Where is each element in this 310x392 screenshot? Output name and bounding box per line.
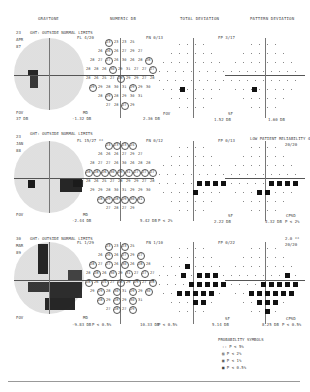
header-graytone: GRAYTONE: [38, 16, 59, 21]
normal-point: [163, 62, 164, 63]
threshold-value: 26: [114, 161, 118, 165]
threshold-value: 28: [94, 67, 98, 71]
p-lt-0.5-symbol: [273, 300, 278, 305]
p-lt-0.5-symbol: [213, 181, 218, 186]
normal-point: [283, 165, 284, 166]
p-lt-0.5-symbol: [221, 282, 226, 287]
p-lt-0.5-symbol: [285, 273, 290, 278]
normal-point: [179, 98, 180, 99]
normal-point: [211, 266, 212, 267]
threshold-value: 27: [122, 206, 126, 210]
threshold-value: 26: [114, 49, 118, 53]
p-lt-0.5-symbol: [189, 282, 194, 287]
normal-point: [283, 89, 284, 90]
threshold-value: 29: [130, 188, 134, 192]
retest-circle: [105, 252, 113, 260]
normal-point: [239, 71, 240, 72]
false-negatives: FN 0/13: [146, 35, 163, 40]
threshold-value: 31: [138, 94, 142, 98]
retest-circle: [113, 196, 121, 204]
normal-point: [243, 266, 244, 267]
normal-point: [159, 284, 160, 285]
legend-label: P < 0.5%: [227, 365, 246, 370]
normal-point: [179, 107, 180, 108]
normal-point: [239, 183, 240, 184]
normal-point: [191, 174, 192, 175]
p-lt-0.5-symbol: [257, 300, 262, 305]
normal-point: [267, 201, 268, 202]
normal-point: [179, 248, 180, 249]
retest-circle: [97, 196, 105, 204]
p-lt-0.5-symbol: [285, 282, 290, 287]
normal-point: [259, 89, 260, 90]
normal-point: [187, 302, 188, 303]
threshold-value: 31: [138, 298, 142, 302]
normal-point: [179, 257, 180, 258]
normal-point: [211, 62, 212, 63]
retest-circle: [105, 196, 113, 204]
retest-circle: [137, 252, 145, 260]
normal-point: [203, 98, 204, 99]
normal-point: [275, 89, 276, 90]
p-lt-0.5-symbol: [265, 300, 270, 305]
p-lt-0.5-symbol: [289, 291, 294, 296]
threshold-value: 28: [86, 271, 90, 275]
retest-circle: [93, 169, 101, 177]
date-day: 23: [16, 134, 21, 139]
normal-point: [231, 275, 232, 276]
normal-point: [267, 266, 268, 267]
legend-title: PROBABILITY SYMBOLS: [218, 337, 264, 342]
normal-point: [203, 266, 204, 267]
normal-point: [235, 62, 236, 63]
threshold-value: 27: [122, 307, 126, 311]
normal-point: [275, 107, 276, 108]
threshold-value: 27: [138, 152, 142, 156]
header-pattern-deviation: PATTERN DEVIATION: [250, 16, 294, 21]
p-lt-0.5-symbol: [261, 282, 266, 287]
retest-circle: [145, 288, 153, 296]
normal-point: [255, 284, 256, 285]
normal-point: [199, 174, 200, 175]
retest-circle: [121, 196, 129, 204]
normal-point: [295, 275, 296, 276]
p-lt-0.5-symbol: [265, 190, 270, 195]
threshold-value: 29: [138, 188, 142, 192]
normal-point: [171, 257, 172, 258]
p-lt-0.5-symbol: [205, 282, 210, 287]
retest-circle: [93, 270, 101, 278]
legend-item: :: P < 5%: [222, 344, 244, 349]
normal-point: [243, 257, 244, 258]
threshold-value: 23: [114, 244, 118, 248]
threshold-value: 27: [150, 271, 154, 275]
normal-point: [195, 89, 196, 90]
header-numeric: NUMERIC DB: [110, 16, 136, 21]
retest-circle: [109, 270, 117, 278]
normal-point: [251, 53, 252, 54]
threshold-value: 27: [142, 67, 146, 71]
defect-region: [28, 282, 50, 292]
normal-point: [203, 89, 204, 90]
normal-point: [203, 257, 204, 258]
cpsd-value: 4.32 DB: [265, 219, 282, 224]
threshold-value: 26: [98, 152, 102, 156]
p-lt-0.5-symbol: [181, 273, 186, 278]
normal-point: [191, 183, 192, 184]
retest-circle: [113, 297, 121, 305]
p-lt-0.5-symbol: [265, 291, 270, 296]
normal-point: [267, 147, 268, 148]
normal-point: [191, 275, 192, 276]
false-positives: FP 0/22: [218, 240, 235, 245]
p-lt-0.5-symbol: [197, 181, 202, 186]
retest-circle: [129, 142, 137, 150]
retest-circle: [113, 142, 121, 150]
p-lt-0.5-symbol: [193, 190, 198, 195]
normal-point: [243, 302, 244, 303]
threshold-value: 28: [150, 76, 154, 80]
normal-point: [159, 183, 160, 184]
md-label: MD: [83, 212, 88, 217]
threshold-value: 28: [106, 85, 110, 89]
retest-circle: [129, 306, 137, 314]
normal-point: [219, 293, 220, 294]
normal-point: [239, 174, 240, 175]
threshold-value: 26: [130, 161, 134, 165]
